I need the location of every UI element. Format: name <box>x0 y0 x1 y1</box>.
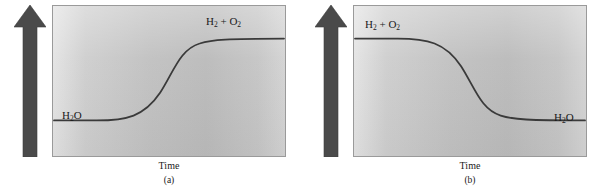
panel-b: Potential energy H2 + O2 H2O Time (b) <box>301 0 602 195</box>
species-label-products-b: H2O <box>554 112 574 123</box>
panel-caption-a: (a) <box>52 175 286 186</box>
species-label-reactant-a: H2O <box>62 110 82 121</box>
x-axis-label-a: Time <box>52 160 286 172</box>
panel-caption-b: (b) <box>353 175 587 186</box>
energy-curve-b <box>355 39 585 121</box>
x-axis-label-b: Time <box>353 160 587 172</box>
energy-curve-a-svg <box>53 6 285 156</box>
potential-energy-arrow-icon <box>14 5 46 157</box>
potential-energy-figure: Potential energy H2 + O2 H2O Time (a) Po… <box>0 0 602 195</box>
energy-curve-a <box>54 39 284 121</box>
potential-energy-arrow-icon <box>315 5 347 157</box>
panel-a: Potential energy H2 + O2 H2O Time (a) <box>0 0 301 195</box>
species-label-products-a: H2 + O2 <box>206 16 241 27</box>
species-label-reactant-b: H2 + O2 <box>365 19 400 30</box>
plot-area-a <box>52 5 286 157</box>
